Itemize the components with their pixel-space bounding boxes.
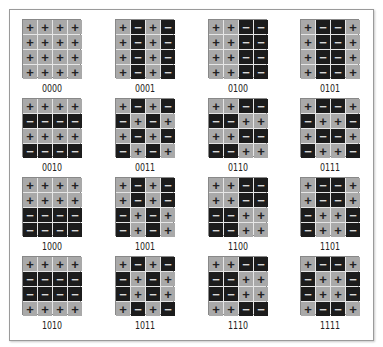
- plus-cell: +: [23, 65, 37, 79]
- plus-cell: +: [23, 193, 37, 207]
- plus-cell: +: [131, 144, 145, 158]
- plus-cell: +: [239, 144, 253, 158]
- pattern-grid-1000: ++++++++−−−−−−−−: [22, 177, 81, 236]
- minus-cell: −: [53, 208, 67, 222]
- minus-cell: −: [331, 257, 345, 271]
- minus-cell: −: [301, 144, 315, 158]
- pattern-label: 1010: [28, 319, 76, 332]
- plus-cell: +: [68, 50, 82, 64]
- plus-cell: +: [116, 20, 130, 34]
- plus-cell: +: [68, 35, 82, 49]
- pattern-grid-0111: +−−+−++−+−−+−++−: [300, 98, 359, 157]
- plus-cell: +: [38, 20, 52, 34]
- minus-cell: −: [161, 193, 175, 207]
- minus-cell: −: [239, 50, 253, 64]
- plus-cell: +: [116, 193, 130, 207]
- plus-cell: +: [209, 50, 223, 64]
- pattern-grid-0010: ++++−−−−++++−−−−: [22, 98, 81, 157]
- minus-cell: −: [301, 272, 315, 286]
- minus-cell: −: [53, 223, 67, 237]
- minus-cell: −: [146, 208, 160, 222]
- minus-cell: −: [316, 129, 330, 143]
- plus-cell: +: [161, 114, 175, 128]
- plus-cell: +: [146, 50, 160, 64]
- minus-cell: −: [161, 257, 175, 271]
- plus-cell: +: [146, 65, 160, 79]
- pattern-grid-1110: ++−−−−++−−++++−−: [208, 256, 267, 315]
- minus-cell: −: [331, 20, 345, 34]
- minus-cell: −: [131, 129, 145, 143]
- plus-cell: +: [209, 65, 223, 79]
- minus-cell: −: [146, 272, 160, 286]
- minus-cell: −: [38, 287, 52, 301]
- plus-cell: +: [301, 302, 315, 316]
- pattern-label: 1011: [121, 319, 169, 332]
- plus-cell: +: [301, 50, 315, 64]
- plus-cell: +: [224, 50, 238, 64]
- plus-cell: +: [23, 129, 37, 143]
- plus-cell: +: [301, 20, 315, 34]
- minus-cell: −: [316, 193, 330, 207]
- plus-cell: +: [23, 257, 37, 271]
- plus-cell: +: [254, 287, 268, 301]
- minus-cell: −: [116, 144, 130, 158]
- plus-cell: +: [53, 35, 67, 49]
- plus-cell: +: [23, 20, 37, 34]
- plus-cell: +: [131, 272, 145, 286]
- pattern-grid-0100: ++−−++−−++−−++−−: [208, 19, 267, 78]
- minus-cell: −: [224, 208, 238, 222]
- plus-cell: +: [301, 65, 315, 79]
- pattern-label: 0001: [121, 82, 169, 95]
- plus-cell: +: [146, 35, 160, 49]
- minus-cell: −: [239, 302, 253, 316]
- plus-cell: +: [131, 208, 145, 222]
- plus-cell: +: [316, 223, 330, 237]
- plus-cell: +: [38, 257, 52, 271]
- plus-cell: +: [68, 178, 82, 192]
- plus-cell: +: [161, 144, 175, 158]
- plus-cell: +: [146, 99, 160, 113]
- pattern-grid-1101: +−−++−−+−++−−++−: [300, 177, 359, 236]
- minus-cell: −: [53, 114, 67, 128]
- plus-cell: +: [146, 302, 160, 316]
- pattern-grid-0011: +−+−−+−++−+−−+−+: [115, 98, 174, 157]
- minus-cell: −: [68, 272, 82, 286]
- plus-cell: +: [331, 287, 345, 301]
- minus-cell: −: [239, 20, 253, 34]
- plus-cell: +: [239, 208, 253, 222]
- minus-cell: −: [131, 302, 145, 316]
- minus-cell: −: [316, 20, 330, 34]
- plus-cell: +: [146, 20, 160, 34]
- minus-cell: −: [254, 65, 268, 79]
- plus-cell: +: [116, 65, 130, 79]
- plus-cell: +: [224, 193, 238, 207]
- plus-cell: +: [53, 99, 67, 113]
- plus-cell: +: [116, 178, 130, 192]
- minus-cell: −: [53, 287, 67, 301]
- minus-cell: −: [254, 193, 268, 207]
- minus-cell: −: [239, 129, 253, 143]
- plus-cell: +: [38, 65, 52, 79]
- pattern-label: 0000: [28, 82, 76, 95]
- pattern-grid-0001: +−+−+−+−+−+−+−+−: [115, 19, 174, 78]
- plus-cell: +: [301, 99, 315, 113]
- plus-cell: +: [38, 129, 52, 143]
- minus-cell: −: [161, 99, 175, 113]
- minus-cell: −: [316, 178, 330, 192]
- minus-cell: −: [23, 208, 37, 222]
- pattern-label: 1110: [214, 319, 262, 332]
- plus-cell: +: [316, 114, 330, 128]
- plus-cell: +: [23, 178, 37, 192]
- pattern-label: 0111: [306, 161, 354, 174]
- plus-cell: +: [346, 20, 360, 34]
- plus-cell: +: [146, 257, 160, 271]
- minus-cell: −: [316, 35, 330, 49]
- plus-cell: +: [301, 193, 315, 207]
- plus-cell: +: [301, 129, 315, 143]
- minus-cell: −: [38, 144, 52, 158]
- minus-cell: −: [331, 50, 345, 64]
- plus-cell: +: [331, 223, 345, 237]
- plus-cell: +: [38, 178, 52, 192]
- plus-cell: +: [254, 114, 268, 128]
- minus-cell: −: [224, 144, 238, 158]
